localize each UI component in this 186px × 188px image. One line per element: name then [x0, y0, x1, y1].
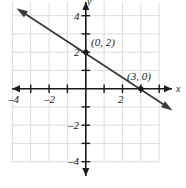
- coordinate-plane-svg: [0, 0, 186, 188]
- x-tick-label-neg4: –4: [8, 94, 19, 105]
- x-tick-label-neg2: –2: [44, 94, 55, 105]
- point-x-intercept: [138, 86, 143, 91]
- x-axis-label: x: [176, 84, 180, 94]
- label-x-intercept: (3, 0): [127, 71, 151, 82]
- y-axis-label: y: [87, 0, 91, 7]
- label-y-intercept: (0, 2): [91, 37, 115, 48]
- point-y-intercept: [83, 50, 88, 55]
- y-tick-label-neg2: –2: [68, 120, 79, 131]
- y-tick-label-pos4: 4: [74, 11, 80, 22]
- y-tick-label-pos2: 2: [74, 47, 80, 58]
- y-tick-label-neg4: –4: [68, 156, 79, 167]
- x-axis: [12, 84, 172, 93]
- graph-figure: –4 –2 2 4 2 –2 –4 (0, 2) (3, 0) x y: [0, 0, 186, 188]
- plotted-line: [17, 8, 173, 110]
- x-tick-label-pos2: 2: [118, 94, 124, 105]
